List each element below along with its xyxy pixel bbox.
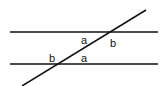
angle-label-bottom-a: a (81, 52, 88, 64)
angle-label-top-a: a (81, 34, 88, 46)
angle-label-top-b: b (110, 37, 116, 49)
transversal-line (22, 10, 146, 86)
diagram-canvas: a b b a (0, 0, 165, 86)
angle-diagram: a b b a (0, 0, 165, 86)
angle-label-bottom-b: b (49, 52, 55, 64)
